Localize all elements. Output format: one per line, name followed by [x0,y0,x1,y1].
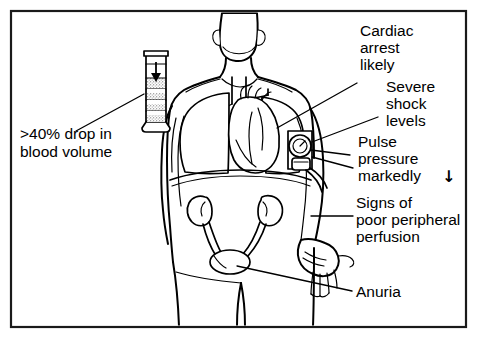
graduated-cylinder [142,51,170,132]
severe-shock-line-3: levels [386,112,426,129]
annotation-anuria: Anuria [356,283,401,300]
ureter-left [243,222,266,256]
blood-volume-line-2: blood volume [20,143,112,160]
poor-perfusion-line-3: perfusion [356,228,420,245]
pulse-pressure-line-3: markedly [358,167,421,184]
pulse-pressure-down-arrow-icon: ↓ [442,167,455,186]
leader-pulse-pressure-2 [312,157,353,168]
pulse-pressure-line-1: Pulse [358,133,397,150]
annotation-pulse-pressure: Pulse pressure markedly ↓ [358,133,455,186]
cardiac-arrest-line-2: arrest [360,39,400,56]
annotation-poor-perfusion: Signs of poor peripheral perfusion [356,194,460,245]
annotation-cardiac-arrest: Cardiac arrest likely [360,22,414,73]
head [213,13,265,61]
cardiac-arrest-line-3: likely [360,56,395,73]
severe-shock-line-2: shock [386,95,427,112]
leader-pulse-pressure [311,150,350,155]
kidney-left [258,196,282,226]
hand [298,239,354,297]
human-figure [161,13,353,326]
ureter-right [203,222,222,256]
severe-shock-line-1: Severe [386,78,435,95]
annotation-blood-volume: >40% drop in blood volume [20,125,112,160]
figure-canvas: >40% drop in blood volume Cardiac arrest… [0,0,482,339]
anuria-label: Anuria [356,283,401,300]
blood-volume-line-1: >40% drop in [20,125,112,142]
poor-perfusion-line-2: poor peripheral [356,211,460,228]
poor-perfusion-line-1: Signs of [356,194,413,211]
medical-diagram: >40% drop in blood volume Cardiac arrest… [0,0,482,339]
lung-right [180,93,229,174]
bladder [210,250,250,274]
annotation-severe-shock: Severe shock levels [386,78,435,129]
kidney-right [187,196,212,226]
cardiac-arrest-line-1: Cardiac [360,22,414,39]
pulse-pressure-line-2: pressure [358,150,418,167]
